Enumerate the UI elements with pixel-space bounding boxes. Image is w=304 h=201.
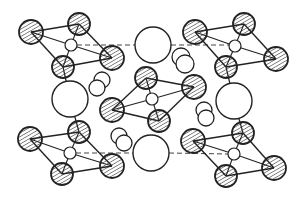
hatched-atom <box>181 129 205 153</box>
dashed-line <box>169 153 228 154</box>
small-atom <box>116 135 132 151</box>
cluster-bottom-right <box>181 122 286 187</box>
hatched-atom <box>182 75 206 99</box>
hatched-atom <box>233 13 255 35</box>
hatched-atom <box>52 56 74 78</box>
central-atom <box>228 148 240 160</box>
hatched-atom <box>100 98 124 122</box>
large-atom <box>133 135 169 171</box>
hatched-atom <box>183 20 207 44</box>
hatched-atom <box>68 121 90 143</box>
hatched-atom <box>51 163 73 185</box>
small-atom <box>176 55 194 73</box>
central-atom <box>64 147 76 159</box>
hatched-atom <box>215 165 237 187</box>
small-atom <box>89 80 105 96</box>
hatched-atom <box>68 13 90 35</box>
hatched-atom <box>215 56 237 78</box>
hatched-atom <box>18 127 42 151</box>
hatched-atom <box>19 20 43 44</box>
central-atom <box>65 39 77 51</box>
hatched-atom <box>100 154 124 178</box>
hatched-atom <box>100 46 124 70</box>
central-atom <box>146 93 158 105</box>
central-atom <box>229 40 241 52</box>
cluster-center <box>100 67 206 132</box>
hatched-atom <box>262 156 286 180</box>
large-atom <box>52 81 88 117</box>
hatched-atom <box>148 110 170 132</box>
crystal-structure-diagram <box>0 0 304 201</box>
cluster-top-left <box>19 13 124 78</box>
small-atom <box>198 110 214 126</box>
large-atom <box>135 27 171 63</box>
hatched-atom <box>232 122 254 144</box>
hatched-atom <box>264 47 288 71</box>
large-atom <box>216 83 252 119</box>
hatched-atom <box>135 67 157 89</box>
